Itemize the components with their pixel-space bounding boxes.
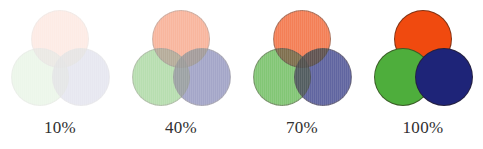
- opacity-label-opacity-40: 40%: [121, 116, 241, 140]
- blue-circle: [415, 48, 473, 106]
- opacity-sample-group-opacity-40: 40%: [121, 0, 241, 149]
- venn-diagram-opacity-100: [363, 0, 483, 114]
- opacity-label-opacity-100: 100%: [363, 116, 483, 140]
- blue-circle: [173, 48, 231, 106]
- opacity-label-opacity-70: 70%: [242, 116, 362, 140]
- blue-circle: [294, 48, 352, 106]
- opacity-sample-group-opacity-10: 10%: [0, 0, 120, 149]
- venn-diagram-opacity-70: [242, 0, 362, 114]
- opacity-sample-group-opacity-70: 70%: [242, 0, 362, 149]
- venn-diagram-opacity-40: [121, 0, 241, 114]
- opacity-figure: 10% 40% 70% 100%: [0, 0, 483, 149]
- opacity-label-opacity-10: 10%: [0, 116, 120, 140]
- venn-diagram-opacity-10: [0, 0, 120, 114]
- opacity-sample-group-opacity-100: 100%: [363, 0, 483, 149]
- blue-circle: [52, 48, 110, 106]
